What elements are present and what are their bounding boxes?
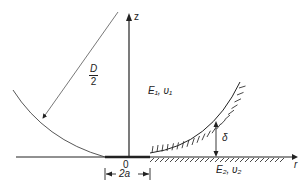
gap-label: δ <box>222 133 228 143</box>
gap-dimension <box>214 121 219 157</box>
lower-surface <box>16 154 298 162</box>
z-axis-label: z <box>134 12 139 22</box>
z-axis <box>126 13 132 157</box>
contact-width-label: 2a <box>119 169 130 179</box>
radius-denominator: 2 <box>91 77 97 87</box>
diagram-canvas <box>0 0 302 194</box>
r-axis-label: r <box>294 160 297 170</box>
gap-arrow-down-icon <box>214 151 219 157</box>
z-axis-arrow-icon <box>126 13 132 21</box>
sphere-profile-left <box>13 90 105 157</box>
lower-body-properties-label: E₂, υ₂ <box>216 165 241 175</box>
width-arrow-left-icon <box>106 172 112 177</box>
width-arrow-right-icon <box>143 172 149 177</box>
radius-numerator: D <box>90 64 97 74</box>
radius-leader-line <box>43 12 118 118</box>
radius-label: D 2 <box>89 64 98 87</box>
upper-body-properties-label: E₁, υ₁ <box>148 86 172 96</box>
gap-arrow-up-icon <box>214 121 219 127</box>
